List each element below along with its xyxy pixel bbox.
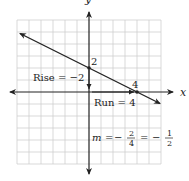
y-axis-label: y	[84, 0, 92, 6]
equals-sign-2: =	[140, 132, 148, 143]
y-intercept-label: 2	[91, 56, 97, 67]
equals-sign-1: =	[105, 132, 113, 143]
fraction1-numerator: 2	[129, 129, 134, 138]
slope-diagram: y x 2 4 Rise = −2 Run = 4 m = − 2 4 = − …	[0, 0, 189, 181]
fraction1-denominator: 4	[129, 139, 134, 148]
slope-m: m	[92, 132, 101, 143]
fraction2-numerator: 1	[167, 129, 172, 138]
run-label: Run = 4	[94, 97, 136, 108]
minus-sign-2: −	[152, 132, 160, 143]
x-axis-label: x	[180, 86, 187, 99]
fraction2-denominator: 2	[167, 139, 172, 148]
rise-label: Rise = −2	[33, 72, 84, 83]
x-intercept-label: 4	[132, 79, 138, 90]
axes	[10, 12, 173, 174]
point-x-intercept	[135, 90, 139, 94]
minus-sign-1: −	[114, 132, 122, 143]
